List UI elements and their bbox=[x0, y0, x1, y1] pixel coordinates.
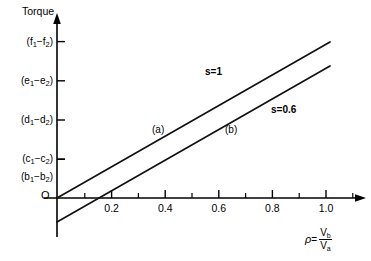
annotation-slip-1: s=1 bbox=[205, 67, 222, 77]
y-axis-arrow-icon bbox=[53, 13, 61, 24]
y-tick-label-f: (f1−f2) bbox=[5, 37, 53, 47]
curve-label-a: (a) bbox=[152, 125, 164, 135]
x-axis-arrow-icon bbox=[355, 194, 366, 202]
chart-canvas bbox=[0, 0, 371, 261]
x-axis bbox=[44, 194, 366, 202]
x-axis-title-denominator: Va bbox=[319, 240, 332, 251]
y-tick-label-c: (c1−c2) bbox=[5, 154, 53, 164]
origin-label: O bbox=[41, 190, 50, 201]
x-tick-label-0-6: 0.6 bbox=[211, 203, 226, 214]
x-axis-title-fraction: Vb Va bbox=[319, 228, 332, 251]
y-axis-title: Torque bbox=[22, 6, 54, 17]
y-tick-label-e: (e1−e2) bbox=[5, 76, 53, 86]
x-axis-major-ticks bbox=[112, 190, 326, 198]
y-tick-label-b: (b1−b2) bbox=[5, 172, 53, 182]
annotation-slip-0-6: s=0.6 bbox=[271, 105, 296, 115]
x-axis-title-numerator: Vb bbox=[319, 228, 332, 239]
curve-label-b: (b) bbox=[225, 125, 237, 135]
x-axis-title-equals: = bbox=[311, 235, 317, 245]
x-axis-title: ρ = Vb Va bbox=[305, 228, 332, 251]
x-tick-label-1-0: 1.0 bbox=[319, 203, 334, 214]
torque-vs-rho-chart: Torque (f1−f2) (e1−e2) (d1−d2) (c1−c2) (… bbox=[0, 0, 371, 261]
series-line-a bbox=[57, 42, 330, 198]
x-tick-label-0-8: 0.8 bbox=[265, 203, 280, 214]
y-tick-label-d: (d1−d2) bbox=[5, 115, 53, 125]
y-axis bbox=[53, 13, 61, 237]
y-axis-ticks bbox=[57, 42, 65, 199]
x-tick-label-0-2: 0.2 bbox=[104, 203, 119, 214]
x-tick-label-0-4: 0.4 bbox=[158, 203, 173, 214]
